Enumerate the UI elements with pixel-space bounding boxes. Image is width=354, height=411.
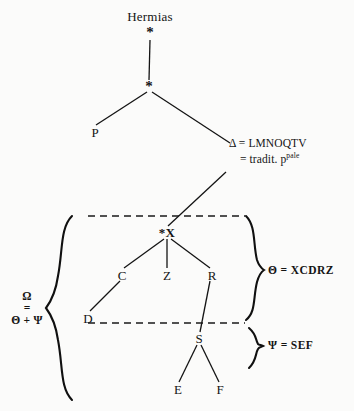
- delta-line-1: Δ = LMNOQTV: [229, 136, 307, 151]
- omega-line-2: =: [4, 302, 50, 314]
- delta-line-2-text: = tradit. p: [240, 153, 286, 165]
- node-witness-z: Z: [163, 269, 171, 282]
- node-archetype-1: *: [146, 25, 154, 40]
- node-archetype-2: *: [145, 79, 153, 94]
- edge-S-E: [179, 345, 197, 382]
- edge-arch2-delta: [152, 92, 230, 143]
- node-hermias: Hermias: [127, 10, 172, 23]
- edge-delta-starX: [168, 172, 226, 226]
- node-witness-c: C: [118, 269, 127, 282]
- node-witness-e: E: [174, 383, 182, 396]
- right-brace-psi: [249, 328, 263, 368]
- edge-C-D: [90, 281, 120, 311]
- delta-line-2: = tradit. ppale: [229, 151, 307, 167]
- node-witness-r: R: [208, 269, 217, 282]
- edge-arch1-arch2: [149, 40, 150, 80]
- right-brace-theta: [246, 216, 264, 320]
- node-starx: *X: [159, 226, 176, 239]
- edge-S-F: [201, 345, 219, 382]
- group-label-omega: Ω = Θ + Ψ: [4, 290, 50, 326]
- node-witness-s: S: [195, 332, 202, 345]
- edge-starX-C: [124, 239, 164, 268]
- node-delta-group: Δ = LMNOQTV = tradit. ppale: [229, 136, 307, 167]
- node-witness-f: F: [216, 383, 223, 396]
- group-label-theta: Θ = XCDRZ: [268, 264, 334, 276]
- omega-line-3: Θ + Ψ: [4, 314, 50, 326]
- group-label-psi: Ψ = SEF: [268, 339, 313, 351]
- edge-R-S: [200, 281, 210, 332]
- delta-line-2-superscript: pale: [286, 151, 299, 160]
- stemma-diagram: Hermias * * P Δ = LMNOQTV = tradit. ppal…: [0, 0, 354, 411]
- node-witness-d: D: [83, 312, 92, 325]
- edge-starX-R: [171, 239, 210, 268]
- edge-arch2-P: [96, 92, 147, 125]
- node-witness-p: P: [91, 126, 98, 139]
- omega-line-1: Ω: [4, 290, 50, 302]
